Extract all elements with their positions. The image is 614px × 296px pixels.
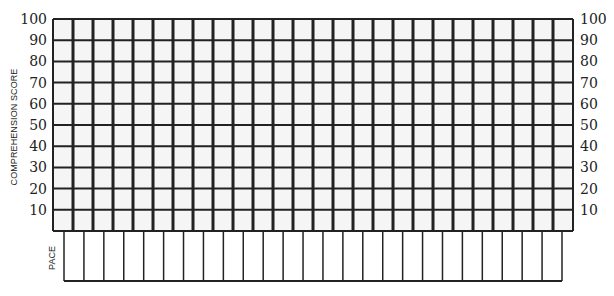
chart-grid <box>0 0 614 296</box>
